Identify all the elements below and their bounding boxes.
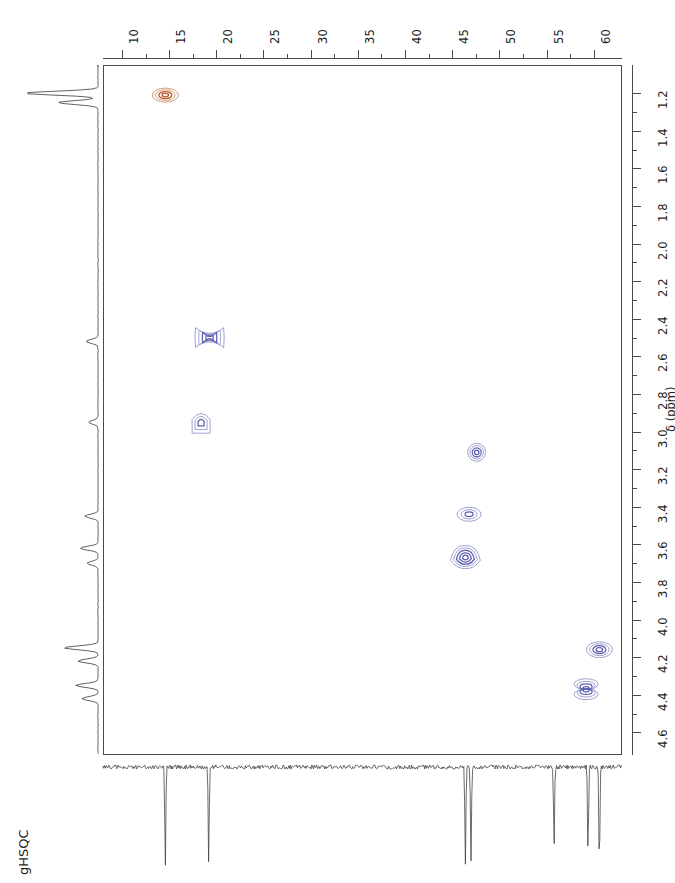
proton-axis-tick: [632, 657, 641, 658]
proton-axis-tick: [632, 469, 641, 470]
carbon-axis-tick-label: 50: [504, 29, 518, 44]
proton-axis-tick-label: 2.6: [656, 354, 670, 373]
carbon-axis-minor-tick: [287, 54, 288, 59]
proton-axis-tick: [632, 319, 641, 320]
proton-axis-minor-tick: [632, 638, 637, 639]
carbon-axis-minor-tick: [570, 54, 571, 59]
carbon-axis-line: [103, 58, 622, 59]
proton-axis-minor-tick: [632, 676, 637, 677]
experiment-label: gHSQC: [16, 829, 31, 875]
carbon-axis-tick-label: 60: [599, 29, 613, 44]
carbon-axis-tick: [263, 50, 264, 59]
carbon-axis-tick: [547, 50, 548, 59]
carbon-axis-tick: [216, 50, 217, 59]
proton-axis-minor-tick: [632, 413, 637, 414]
carbon-axis-tick: [452, 50, 453, 59]
carbon-axis-tick-label: 35: [363, 29, 377, 44]
proton-axis-tick: [632, 394, 641, 395]
proton-axis-tick-label: 2.4: [656, 316, 670, 335]
carbon-axis-minor-tick: [240, 54, 241, 59]
proton-axis-minor-tick: [632, 526, 637, 527]
proton-axis-tick: [632, 281, 641, 282]
carbon-axis-tick: [122, 50, 123, 59]
carbon-axis-minor-tick: [429, 54, 430, 59]
proton-projection-trace: [0, 60, 104, 760]
carbon-axis-tick: [405, 50, 406, 59]
proton-axis-minor-tick: [632, 300, 637, 301]
proton-axis-minor-tick: [632, 601, 637, 602]
proton-axis-minor-tick: [632, 150, 637, 151]
spectrum-plot-area: [103, 65, 622, 755]
proton-axis-tick: [632, 356, 641, 357]
proton-axis-minor-tick: [632, 225, 637, 226]
proton-projection-path: [28, 65, 99, 754]
carbon-axis-minor-tick: [381, 54, 382, 59]
carbon-axis-minor-tick: [523, 54, 524, 59]
proton-axis-tick-label: 4.6: [656, 730, 670, 749]
carbon-axis-tick-label: 30: [316, 29, 330, 44]
proton-axis-tick-label: 2.0: [656, 241, 670, 260]
carbon-axis-minor-tick: [334, 54, 335, 59]
proton-axis-tick-label: 2.2: [656, 278, 670, 297]
proton-axis-tick-label: 1.4: [656, 128, 670, 147]
proton-axis-tick: [632, 620, 641, 621]
proton-axis-minor-tick: [632, 450, 637, 451]
proton-axis-tick-label: 4.4: [656, 692, 670, 711]
proton-axis-tick-label: 1.6: [656, 166, 670, 185]
carbon-axis-minor-tick: [146, 54, 147, 59]
carbon-projection-trace: [100, 755, 628, 875]
proton-axis-minor-tick: [632, 112, 637, 113]
proton-axis-tick-label: 1.2: [656, 90, 670, 109]
nmr-figure: gHSQC 1015202530354045505560 1.21.41.61.…: [0, 0, 675, 883]
proton-axis-minor-tick: [632, 375, 637, 376]
proton-axis-minor-tick: [632, 338, 637, 339]
proton-axis-tick: [632, 206, 641, 207]
proton-axis-tick-label: 3.6: [656, 542, 670, 561]
proton-axis-minor-tick: [632, 187, 637, 188]
proton-axis-tick: [632, 544, 641, 545]
proton-axis-tick-label: 1.8: [656, 203, 670, 222]
proton-axis-tick: [632, 695, 641, 696]
carbon-axis-tick-label: 40: [410, 29, 424, 44]
carbon-axis-tick: [169, 50, 170, 59]
proton-axis-minor-tick: [632, 488, 637, 489]
carbon-axis-tick-label: 55: [552, 29, 566, 44]
carbon-axis-minor-tick: [193, 54, 194, 59]
proton-axis-tick: [632, 432, 641, 433]
carbon-axis-tick: [311, 50, 312, 59]
proton-axis-tick-label: 3.2: [656, 466, 670, 485]
proton-axis-tick-label: 3.4: [656, 504, 670, 523]
proton-axis-tick-label: 3.8: [656, 579, 670, 598]
carbon-axis-tick-label: 15: [174, 29, 188, 44]
proton-axis-tick: [632, 93, 641, 94]
proton-axis-tick: [632, 507, 641, 508]
carbon-axis-tick-label: 45: [457, 29, 471, 44]
proton-axis-tick-label: 4.2: [656, 654, 670, 673]
carbon-axis-tick: [499, 50, 500, 59]
proton-axis-tick: [632, 168, 641, 169]
carbon-axis-minor-tick: [476, 54, 477, 59]
proton-axis-minor-tick: [632, 563, 637, 564]
proton-axis-tick: [632, 131, 641, 132]
carbon-axis-tick: [594, 50, 595, 59]
carbon-axis-tick-label: 10: [127, 29, 141, 44]
carbon-projection-path: [103, 765, 621, 865]
proton-axis-minor-tick: [632, 714, 637, 715]
proton-axis-tick: [632, 732, 641, 733]
carbon-axis-tick-label: 20: [221, 29, 235, 44]
carbon-axis-tick: [358, 50, 359, 59]
proton-axis-minor-tick: [632, 262, 637, 263]
proton-axis-tick: [632, 582, 641, 583]
proton-axis-tick-label: 4.0: [656, 617, 670, 636]
proton-axis-title: δ (ppm): [664, 387, 675, 432]
proton-axis-tick: [632, 244, 641, 245]
carbon-axis-tick-label: 25: [268, 29, 282, 44]
